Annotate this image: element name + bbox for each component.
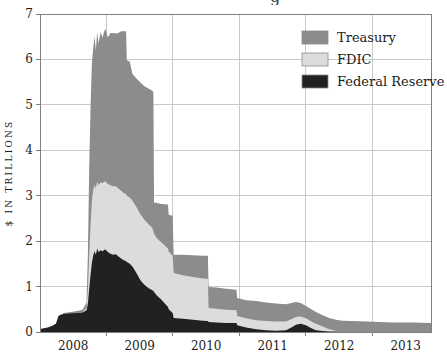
chart-figure: g 01234567200820092010201120122013 $ IN … [0,0,447,363]
y-tick-label: 2 [25,234,33,248]
legend-label-fdic: FDIC [337,52,372,67]
x-tick-label: 2013 [390,339,421,353]
legend-label-treasury: Treasury [337,30,397,45]
legend-swatch-federal-reserve [302,75,328,88]
y-tick-label: 7 [25,7,33,21]
stacked-area-chart: 01234567200820092010201120122013 $ IN TR… [0,0,447,363]
x-tick-label: 2009 [124,339,155,353]
x-tick-label: 2008 [58,339,89,353]
x-tick-label: 2011 [257,339,288,353]
y-axis-title: $ IN TRILLIONS [4,120,14,227]
legend-swatch-fdic [302,53,328,66]
x-tick-label: 2010 [191,339,222,353]
x-tick-label: 2012 [324,339,355,353]
legend-label-federal-reserve: Federal Reserve [337,74,445,89]
y-tick-label: 0 [25,325,33,339]
y-tick-label: 4 [25,143,33,157]
y-tick-label: 5 [25,98,33,112]
y-tick-label: 3 [25,189,33,203]
y-tick-label: 6 [25,52,33,66]
legend-swatch-treasury [302,31,328,44]
y-tick-label: 1 [25,280,33,294]
